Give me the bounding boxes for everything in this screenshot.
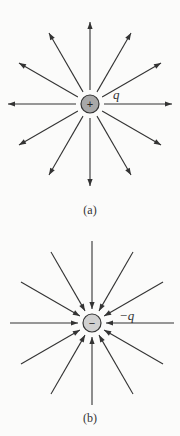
arrow-icon-b-8 [79, 304, 85, 311]
charge-label-b: −q [119, 308, 134, 324]
arrow-icon-b-5 [73, 330, 80, 336]
arrow-icon-b-1 [104, 330, 111, 336]
arrow-icon-a-10 [125, 33, 131, 40]
arrow-icon-b-10 [99, 304, 105, 311]
arrow-icon-a-6 [8, 101, 15, 106]
caption-a: (a) [83, 203, 96, 218]
arrow-icon-b-3 [89, 337, 94, 344]
caption-b: (b) [83, 411, 97, 426]
arrow-icon-a-0 [165, 101, 172, 106]
arrow-icon-a-4 [49, 168, 55, 175]
arrow-icon-b-4 [79, 335, 85, 342]
arrow-icon-a-9 [87, 22, 92, 29]
arrow-icon-a-1 [154, 139, 161, 145]
arrow-icon-a-8 [49, 33, 55, 40]
arrow-icon-b-9 [89, 302, 94, 309]
arrow-icon-b-11 [104, 310, 111, 316]
arrow-icon-b-6 [71, 320, 78, 325]
arrow-icon-a-3 [87, 179, 92, 186]
charge-sign-a: + [87, 98, 93, 110]
arrow-icon-a-7 [19, 63, 26, 69]
arrow-icon-b-2 [99, 335, 105, 342]
arrow-icon-a-11 [154, 63, 161, 69]
arrow-icon-a-5 [19, 139, 26, 145]
arrow-icon-a-2 [125, 168, 131, 175]
arrow-icon-b-7 [73, 310, 80, 316]
charge-label-a: q [113, 87, 120, 103]
charge-sign-b: − [89, 317, 95, 329]
field-diagram-canvas: +− [0, 0, 180, 436]
arrow-icon-b-0 [106, 320, 113, 325]
